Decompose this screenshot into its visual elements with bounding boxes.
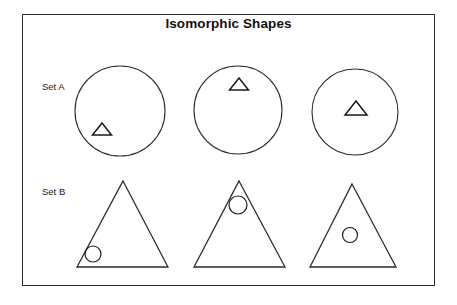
circle-with-triangle-top: [194, 66, 282, 154]
set-b-shape-row: [77, 181, 396, 267]
inner-triangle: [230, 78, 249, 90]
set-a-shape-row: [75, 66, 398, 156]
inner-circle: [85, 246, 101, 262]
outer-circle: [194, 66, 282, 154]
circle-with-triangle-center: [312, 69, 398, 155]
inner-circle: [229, 196, 247, 214]
inner-triangle: [93, 123, 112, 135]
figure-root: Isomorphic Shapes Set A Set B: [0, 0, 457, 305]
triangle-with-circle-lower-left: [77, 181, 168, 267]
outer-triangle: [310, 184, 396, 267]
circle-with-triangle-lower-left: [75, 66, 165, 156]
shapes-canvas: [0, 0, 457, 305]
outer-triangle: [194, 181, 285, 267]
inner-triangle: [345, 101, 367, 115]
outer-circle: [312, 69, 398, 155]
outer-triangle: [77, 181, 168, 267]
outer-circle: [75, 66, 165, 156]
triangle-with-circle-center: [310, 184, 396, 267]
inner-circle: [343, 228, 358, 243]
triangle-with-circle-top: [194, 181, 285, 267]
